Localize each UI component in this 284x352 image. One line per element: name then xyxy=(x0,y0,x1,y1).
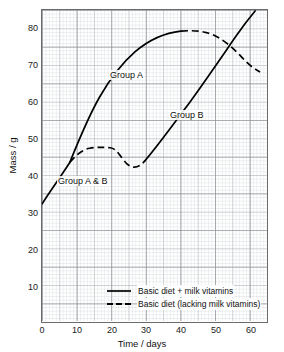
x-tick-0: 0 xyxy=(39,326,44,335)
x-axis-title: Time / days xyxy=(0,338,284,349)
legend-label-solid: Basic diet + milk vitamins xyxy=(137,285,234,297)
plot-area: Group A Group B Group A & B Basic diet +… xyxy=(41,9,268,323)
series-label-group-ab: Group A & B xyxy=(57,176,109,186)
series-label-group-a: Group A xyxy=(109,70,144,80)
chart-legend: Basic diet + milk vitamins Basic diet (l… xyxy=(106,284,261,310)
y-tick-50: 50 xyxy=(28,135,38,144)
legend-label-dashed: Basic diet (lacking milk vitamins) xyxy=(137,298,261,310)
y-tick-40: 40 xyxy=(28,172,38,181)
legend-item-solid: Basic diet + milk vitamins xyxy=(106,284,261,297)
series-group-b-dashed xyxy=(70,147,145,167)
series-group-a-solid xyxy=(70,31,181,162)
series-group-b-solid xyxy=(145,11,255,161)
y-tick-10: 10 xyxy=(28,283,38,292)
data-series-layer xyxy=(42,10,267,321)
y-tick-70: 70 xyxy=(28,61,38,70)
y-tick-20: 20 xyxy=(28,246,38,255)
legend-swatch-solid xyxy=(106,286,132,296)
legend-swatch-dashed xyxy=(106,299,132,309)
x-tick-20: 20 xyxy=(107,326,117,335)
x-tick-40: 40 xyxy=(176,326,186,335)
legend-item-dashed: Basic diet (lacking milk vitamins) xyxy=(106,297,261,310)
series-label-group-b: Group B xyxy=(169,110,205,120)
y-axis-title: Mass / g xyxy=(7,116,18,196)
y-tick-30: 30 xyxy=(28,209,38,218)
x-tick-10: 10 xyxy=(72,326,82,335)
y-tick-80: 80 xyxy=(28,24,38,33)
series-group-a-dashed xyxy=(181,31,260,72)
y-tick-60: 60 xyxy=(28,98,38,107)
x-tick-60: 60 xyxy=(246,326,256,335)
chart-container: 80 70 60 50 40 30 20 10 Mass / g xyxy=(0,0,284,352)
x-tick-50: 50 xyxy=(211,326,221,335)
x-tick-30: 30 xyxy=(141,326,151,335)
